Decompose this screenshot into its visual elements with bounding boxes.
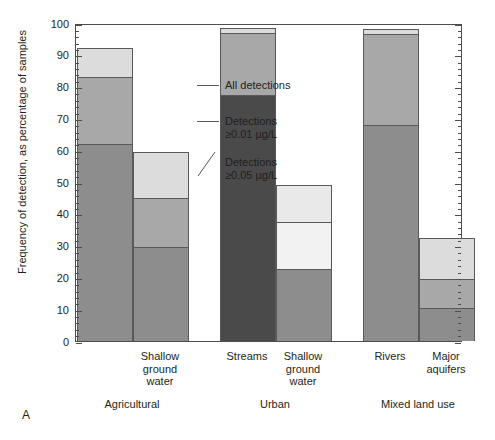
y-axis-major-tick-right — [455, 88, 461, 89]
y-axis-minor-tick — [76, 75, 79, 76]
y-axis-major-tick — [76, 25, 82, 26]
y-tick-label-90: 90 — [29, 50, 69, 61]
y-tick-label-0: 0 — [29, 337, 69, 348]
x-axis-category-line: water — [257, 375, 349, 388]
y-axis-minor-tick — [76, 304, 79, 305]
y-tick-label-70: 70 — [29, 114, 69, 125]
y-axis-major-tick — [76, 152, 82, 153]
y-axis-minor-tick-right — [458, 37, 461, 38]
y-tick-label-30: 30 — [29, 241, 69, 252]
legend-det-001-line1: Detections — [225, 115, 277, 128]
y-axis-minor-tick — [76, 292, 79, 293]
bar-1 — [77, 48, 133, 341]
bar-segment-all-detections — [276, 185, 332, 222]
x-axis-category-line: Shallow — [257, 350, 349, 363]
leader-line-all-detections — [197, 85, 219, 86]
y-axis-major-tick-right — [455, 152, 461, 153]
y-axis-minor-tick — [76, 158, 79, 159]
y-axis-minor-tick — [76, 330, 79, 331]
x-axis-category-line: ground — [257, 363, 349, 376]
y-axis-minor-tick-right — [458, 292, 461, 293]
y-axis-minor-tick-right — [458, 234, 461, 235]
y-axis-major-tick — [76, 279, 82, 280]
y-axis-minor-tick — [76, 171, 79, 172]
y-axis-minor-tick-right — [458, 69, 461, 70]
y-axis-minor-tick-right — [458, 273, 461, 274]
y-axis-minor-tick-right — [458, 330, 461, 331]
y-tick-label-80: 80 — [29, 82, 69, 93]
y-axis-minor-tick — [76, 107, 79, 108]
y-axis-minor-tick — [76, 323, 79, 324]
y-axis-title: Frequency of detection, as percentage of… — [16, 2, 28, 302]
y-axis-minor-tick-right — [458, 285, 461, 286]
y-axis-minor-tick-right — [458, 266, 461, 267]
y-axis-major-tick-right — [455, 120, 461, 121]
plot-area: All detections Detections ≥0.01 µg/L Det… — [75, 24, 462, 342]
legend-det-005-line1: Detections — [225, 156, 277, 169]
y-axis-major-tick-right — [455, 279, 461, 280]
y-axis-minor-tick — [76, 164, 79, 165]
figure-panel: Frequency of detection, as percentage of… — [0, 0, 495, 440]
y-axis-minor-tick — [76, 44, 79, 45]
y-axis-major-tick — [76, 88, 82, 89]
legend-det-001-line2: ≥0.01 µg/L — [225, 128, 277, 141]
y-axis-major-tick — [76, 215, 82, 216]
x-axis-category-line: ground — [114, 363, 206, 376]
y-axis-minor-tick-right — [458, 31, 461, 32]
y-axis-major-tick-right — [455, 25, 461, 26]
y-axis-minor-tick — [76, 253, 79, 254]
y-axis-minor-tick-right — [458, 94, 461, 95]
y-axis-minor-tick — [76, 37, 79, 38]
bar-segment-det-005 — [419, 308, 475, 341]
y-axis-minor-tick-right — [458, 222, 461, 223]
y-axis-minor-tick — [76, 241, 79, 242]
y-axis-minor-tick — [76, 145, 79, 146]
y-axis-minor-tick — [76, 31, 79, 32]
y-axis-minor-tick — [76, 285, 79, 286]
x-axis-category-label-2: Shallowgroundwater — [114, 350, 206, 388]
y-axis-minor-tick — [76, 82, 79, 83]
bar-segment-det-001 — [77, 77, 133, 144]
bar-4 — [276, 185, 332, 341]
y-axis-minor-tick — [76, 190, 79, 191]
x-axis-category-line: aquifers — [400, 363, 492, 376]
y-axis-minor-tick — [76, 101, 79, 102]
bar-segment-all-detections — [133, 152, 189, 198]
x-axis-group-label-1: Agricultural — [52, 398, 212, 411]
y-tick-label-20: 20 — [29, 273, 69, 284]
x-axis-category-line: Major — [400, 350, 492, 363]
y-axis-major-tick — [76, 56, 82, 57]
y-axis-major-tick — [76, 311, 82, 312]
y-axis-minor-tick-right — [458, 133, 461, 134]
y-axis-minor-tick — [76, 336, 79, 337]
y-axis-minor-tick — [76, 317, 79, 318]
leader-line-det-005 — [197, 151, 217, 177]
y-axis-minor-tick-right — [458, 336, 461, 337]
y-axis-minor-tick — [76, 94, 79, 95]
bar-segment-det-005 — [363, 125, 419, 341]
bar-segment-det-001 — [419, 279, 475, 308]
y-axis-minor-tick — [76, 273, 79, 274]
y-axis-minor-tick-right — [458, 190, 461, 191]
y-axis-minor-tick-right — [458, 82, 461, 83]
bar-segment-det-001 — [133, 198, 189, 247]
y-axis-minor-tick — [76, 126, 79, 127]
y-axis-minor-tick — [76, 209, 79, 210]
y-axis-minor-tick-right — [458, 253, 461, 254]
y-axis-minor-tick-right — [458, 158, 461, 159]
bar-segment-det-001 — [276, 222, 332, 270]
y-axis-minor-tick-right — [458, 44, 461, 45]
x-axis-category-line: water — [114, 375, 206, 388]
y-axis-minor-tick-right — [458, 126, 461, 127]
y-axis-major-tick — [76, 120, 82, 121]
bar-segment-all-detections — [77, 48, 133, 77]
y-axis-minor-tick-right — [458, 317, 461, 318]
y-axis-minor-tick — [76, 196, 79, 197]
bar-2 — [133, 152, 189, 341]
x-axis-category-label-4: Shallowgroundwater — [257, 350, 349, 388]
y-tick-label-100: 100 — [29, 19, 69, 30]
bar-segment-det-005 — [276, 269, 332, 341]
y-axis-major-tick-right — [455, 247, 461, 248]
y-axis-major-tick-right — [455, 215, 461, 216]
bar-segment-det-005 — [77, 144, 133, 341]
